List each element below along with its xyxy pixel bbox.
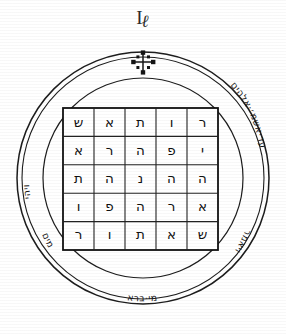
- magic-cell: ש: [74, 114, 84, 130]
- magic-cell: א: [105, 114, 114, 130]
- plate-figure-number: Iℓ: [0, 8, 286, 27]
- magic-cell: ת: [136, 114, 145, 130]
- magic-cell: ה: [136, 142, 145, 158]
- magic-cell: א: [74, 142, 83, 158]
- magic-cell: פ: [167, 142, 175, 158]
- magic-square: ש א ת ו ר א ר ה פ י ת ה נ ה ה ו פ ה ר א …: [63, 108, 218, 250]
- magic-cell: א: [167, 226, 176, 242]
- ring-text-lower-left: מים: [40, 231, 57, 250]
- pentacle-plate: Iℓ עד·אשמ׳·אלהים: [0, 0, 286, 334]
- magic-cell: א: [198, 198, 207, 214]
- talisman-seal: עד·אשמ׳·אלהים ויאמר מי·ברא מים ויהי ש: [0, 30, 286, 330]
- magic-cell: י: [201, 142, 204, 158]
- magic-cell: ה: [198, 170, 207, 186]
- cross-crosslet-icon: [131, 50, 155, 74]
- magic-cell: ש: [198, 226, 208, 242]
- magic-cell: ה: [105, 170, 114, 186]
- magic-cell: ר: [199, 114, 207, 130]
- magic-cell: ה: [167, 170, 176, 186]
- magic-cell: ר: [75, 226, 83, 242]
- magic-cell: ת: [136, 226, 145, 242]
- magic-cell: נ: [138, 170, 143, 186]
- ring-text-left: ויהי: [20, 184, 32, 200]
- magic-cell: ת: [74, 170, 83, 186]
- magic-cell: פ: [105, 198, 113, 214]
- magic-cell: ו: [108, 226, 112, 242]
- magic-cell: ו: [170, 114, 174, 130]
- magic-cell: ר: [106, 142, 114, 158]
- magic-cell: ה: [136, 198, 145, 214]
- magic-cell: ר: [168, 198, 176, 214]
- magic-cell: ו: [77, 198, 81, 214]
- ring-text-bottom: מי·ברא: [127, 291, 158, 303]
- plate-number-flourish: ℓ: [142, 12, 149, 31]
